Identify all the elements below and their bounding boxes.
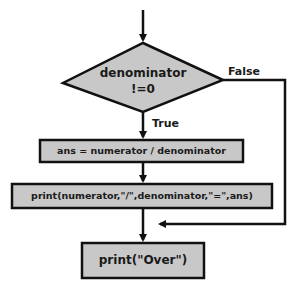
step-1-text: ans = numerator / denominator (40, 146, 243, 156)
step-3-text: print("Over") (82, 254, 204, 266)
true-label: True (152, 118, 179, 129)
step-2-text: print(numerator,"/",denominator,"=",ans) (12, 191, 272, 201)
decision-line1: denominator (93, 67, 193, 79)
decision-line2: !=0 (113, 83, 173, 95)
false-label: False (228, 66, 260, 77)
